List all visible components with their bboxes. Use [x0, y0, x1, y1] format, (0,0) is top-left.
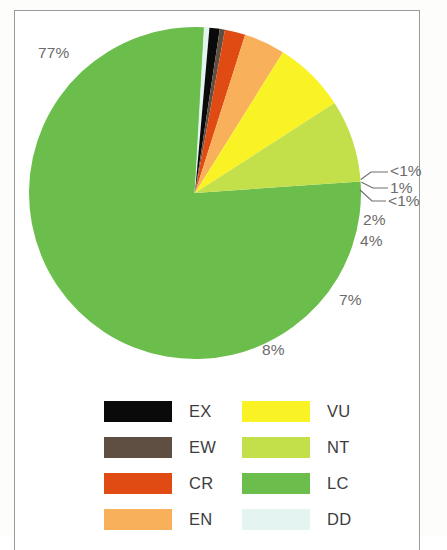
- legend-label-dd: DD: [327, 510, 351, 529]
- legend-label-nt: NT: [327, 438, 350, 457]
- pie-label-lc: 77%: [38, 44, 69, 62]
- legend-item-lc[interactable]: LC: [242, 465, 370, 501]
- legend-swatch-dd: [242, 509, 310, 530]
- leader-line-dd: [361, 172, 388, 180]
- legend-swatch-en: [104, 509, 172, 530]
- legend-label-en: EN: [189, 510, 213, 529]
- legend-swatch-lc: [242, 473, 310, 494]
- pie-label-vu: 7%: [339, 291, 362, 309]
- legend-label-ew: EW: [189, 438, 216, 457]
- leader-line-ex: [362, 182, 389, 188]
- legend-item-ex[interactable]: EX: [104, 393, 232, 429]
- legend-item-dd[interactable]: DD: [242, 501, 370, 537]
- chart-legend: EX VU EW NT CR LC EN DD: [104, 393, 374, 537]
- legend-label-lc: LC: [327, 474, 349, 493]
- legend-label-vu: VU: [327, 402, 351, 421]
- pie-label-nt: 8%: [262, 341, 285, 359]
- pie-slices: [29, 27, 361, 359]
- pie-label-ew: <1%: [388, 192, 420, 210]
- legend-item-ew[interactable]: EW: [104, 429, 232, 465]
- legend-item-nt[interactable]: NT: [242, 429, 370, 465]
- legend-swatch-ew: [104, 437, 172, 458]
- legend-label-cr: CR: [189, 474, 213, 493]
- legend-swatch-cr: [104, 473, 172, 494]
- pie-leader-lines: [360, 172, 388, 201]
- pie-label-dd: <1%: [390, 162, 422, 180]
- legend-label-ex: EX: [189, 402, 212, 421]
- leader-line-ew: [360, 190, 386, 201]
- legend-item-en[interactable]: EN: [104, 501, 232, 537]
- pie-label-cr: 2%: [363, 211, 386, 229]
- legend-item-vu[interactable]: VU: [242, 393, 370, 429]
- pie-label-en: 4%: [360, 232, 383, 250]
- legend-swatch-nt: [242, 437, 310, 458]
- legend-swatch-ex: [104, 401, 172, 422]
- legend-swatch-vu: [242, 401, 310, 422]
- legend-item-cr[interactable]: CR: [104, 465, 232, 501]
